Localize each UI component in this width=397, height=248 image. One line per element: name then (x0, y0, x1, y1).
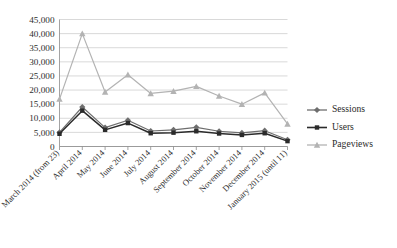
data-point-marker (194, 129, 198, 133)
y-axis-tick-label: 25,000 (29, 71, 55, 81)
series-line (60, 111, 288, 141)
y-axis-tick-label: 35,000 (29, 43, 55, 53)
data-point-marker (57, 132, 61, 136)
legend-item-pageviews[interactable]: Pageviews (307, 138, 373, 149)
data-point-marker (80, 108, 84, 112)
series-pageviews (56, 30, 290, 126)
chart-legend: SessionsUsersPageviews (307, 103, 373, 149)
line-chart: 05,00010,00015,00020,00025,00030,00035,0… (0, 0, 397, 248)
data-point-marker (285, 139, 289, 143)
data-point-marker (217, 131, 221, 135)
y-axis-tick-label: 40,000 (29, 29, 55, 39)
legend-label: Pageviews (332, 138, 373, 149)
legend-item-sessions[interactable]: Sessions (307, 103, 365, 114)
data-point-marker (314, 107, 320, 113)
series-users (57, 108, 289, 143)
y-axis-tick-label: 30,000 (29, 57, 55, 67)
data-point-marker (216, 93, 222, 99)
x-axis-tick-label: March 2014 (from 23) (0, 148, 61, 210)
data-point-marker (171, 130, 175, 134)
x-axis-tick-marks (60, 147, 288, 151)
data-point-marker (149, 131, 153, 135)
data-point-marker (125, 72, 131, 78)
data-point-marker (263, 131, 267, 135)
y-axis-tick-label: 10,000 (29, 113, 55, 123)
data-point-marker (56, 96, 62, 102)
chart-container: 05,00010,00015,00020,00025,00030,00035,0… (0, 0, 397, 248)
legend-label: Sessions (332, 103, 365, 114)
data-point-marker (126, 121, 130, 125)
data-series-layer (56, 30, 290, 143)
y-axis-tick-labels: 05,00010,00015,00020,00025,00030,00035,0… (29, 15, 55, 152)
y-axis-tick-label: 20,000 (29, 85, 55, 95)
data-point-marker (315, 125, 319, 129)
legend-item-users[interactable]: Users (307, 121, 354, 132)
series-line (60, 34, 288, 124)
x-axis-tick-labels: March 2014 (from 23)April 2014May 2014Ju… (0, 147, 289, 211)
data-point-marker (103, 128, 107, 132)
data-point-marker (193, 83, 199, 89)
y-axis-tick-label: 5,000 (34, 128, 55, 138)
data-point-marker (262, 90, 268, 96)
y-axis-tick-label: 15,000 (29, 99, 55, 109)
y-axis-tick-label: 45,000 (29, 15, 55, 25)
legend-label: Users (332, 121, 354, 132)
data-point-marker (240, 133, 244, 137)
series-sessions (56, 104, 290, 143)
